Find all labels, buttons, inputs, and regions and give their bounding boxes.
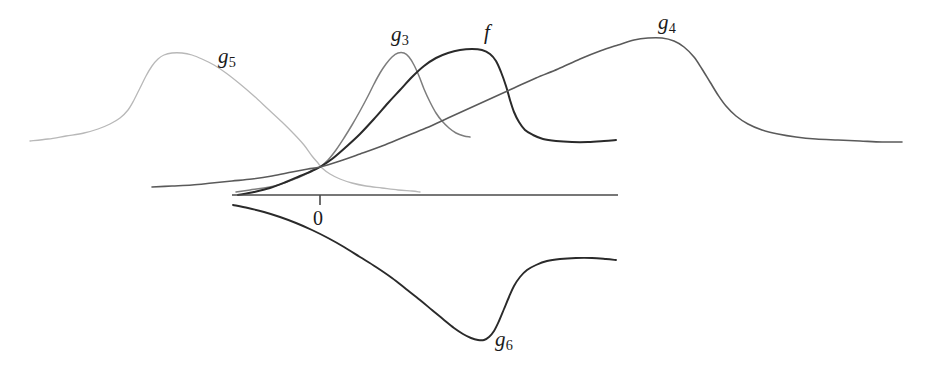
curve-f [238, 49, 616, 195]
curve-g3 [236, 52, 470, 192]
curve-g6 [233, 205, 616, 340]
plot-canvas [0, 0, 930, 374]
curve-label-g5: g5 [218, 46, 236, 67]
label-subscript-g6: 6 [506, 337, 513, 353]
curve-label-g4: g4 [658, 12, 676, 33]
curve-g5 [30, 53, 420, 192]
label-base-g3: g [391, 22, 402, 46]
curve-label-g6: g6 [495, 329, 513, 350]
label-subscript-g5: 5 [229, 54, 236, 70]
label-base-f: f [484, 20, 490, 44]
label-base-g6: g [495, 327, 506, 351]
curve-label-g3: g3 [391, 24, 409, 45]
axis-group [232, 195, 618, 205]
label-base-g5: g [218, 44, 229, 68]
label-subscript-g3: 3 [402, 32, 409, 48]
function-family-figure: g5 g3 f g4 g6 0 [0, 0, 930, 374]
curve-g4 [152, 38, 902, 187]
curves-group [30, 38, 902, 341]
origin-label: 0 [313, 208, 323, 228]
curve-label-f: f [484, 22, 490, 43]
label-subscript-g4: 4 [669, 20, 676, 36]
label-base-g4: g [658, 10, 669, 34]
